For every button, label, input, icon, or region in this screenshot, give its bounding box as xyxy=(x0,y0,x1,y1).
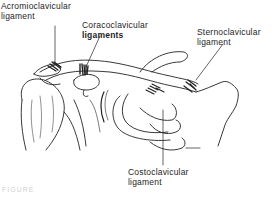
humerus-head xyxy=(21,79,64,150)
leader-sternoclavicular xyxy=(196,44,223,80)
label-line: ligaments xyxy=(82,30,148,40)
label-acromioclavicular-ligament: Acromioclavicular ligament xyxy=(1,1,71,21)
label-line: ligament xyxy=(197,37,261,47)
label-line: ligament xyxy=(128,177,189,187)
label-sternoclavicular-ligament: Sternoclavicular ligament xyxy=(197,27,261,47)
label-line: Costoclavicular xyxy=(128,167,189,177)
label-line: ligament xyxy=(1,11,71,21)
leader-coracoclavicular xyxy=(86,36,100,67)
sternum xyxy=(196,81,238,146)
costal-cartilage xyxy=(140,104,177,120)
first-rib xyxy=(113,96,170,141)
label-costoclavicular-ligament: Costoclavicular ligament xyxy=(128,167,189,187)
figure-caption: FIGURE xyxy=(2,186,34,193)
label-coracoclavicular-ligaments: Coracoclavicular ligaments xyxy=(82,20,148,40)
label-line: Acromioclavicular xyxy=(1,1,71,11)
clavicle xyxy=(40,60,198,84)
label-line: Coracoclavicular xyxy=(82,20,148,30)
coracoid-process xyxy=(74,74,100,90)
label-line: Sternoclavicular xyxy=(197,27,261,37)
ligament-costoclavicular-mark xyxy=(146,84,164,94)
